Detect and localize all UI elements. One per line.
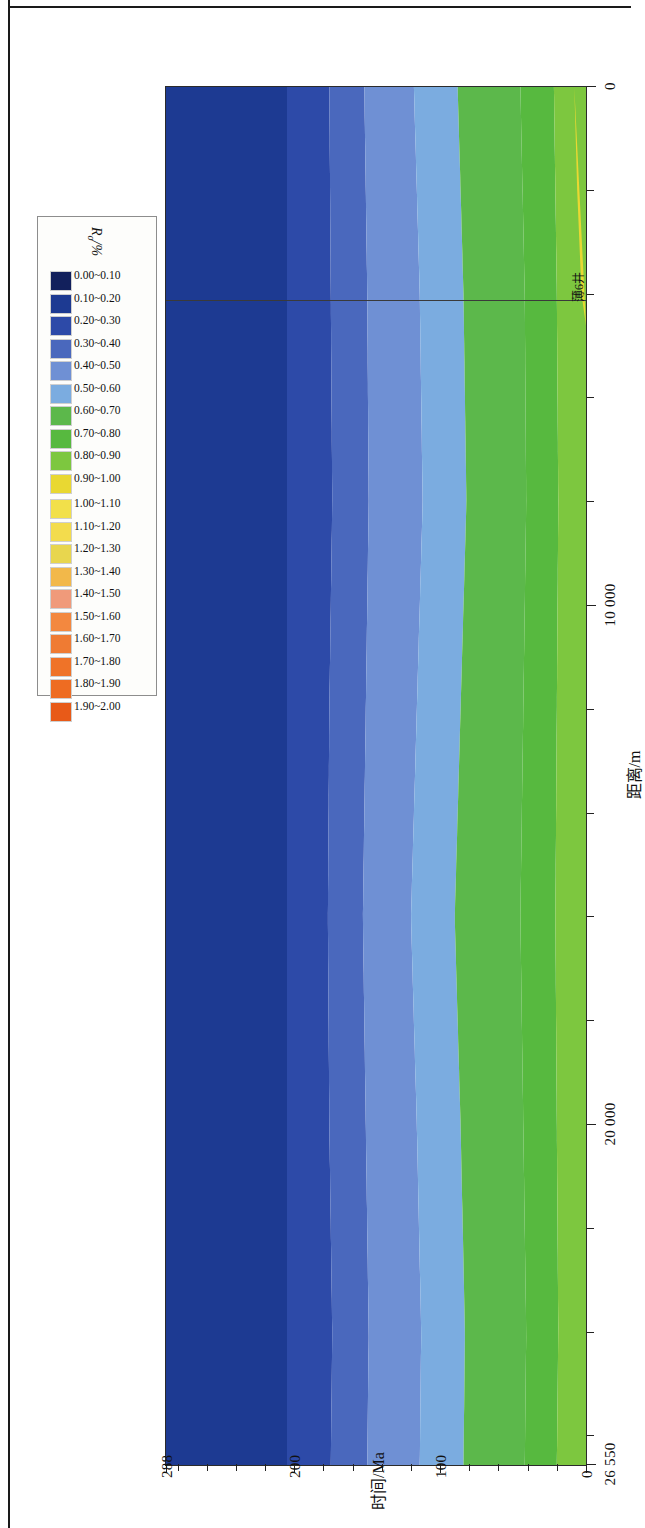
minor-tick-time	[236, 1464, 237, 1471]
minor-tick-distance	[587, 190, 594, 191]
minor-tick-time	[499, 1464, 500, 1471]
minor-tick-distance	[587, 916, 594, 917]
minor-tick-distance	[587, 1332, 594, 1333]
x-tick-label: 0	[602, 82, 619, 90]
x-tick-label: 20 000	[602, 1103, 619, 1146]
legend-low-label: 0.20~0.30	[74, 314, 120, 326]
legend-low-swatch	[50, 384, 72, 404]
legend-high-item: 1.50~1.60	[50, 612, 72, 632]
x-axis-title: 距离/m	[621, 751, 645, 800]
minor-tick-distance	[587, 1228, 594, 1229]
legend-high-item: 1.00~1.10	[50, 499, 72, 519]
legend-high-item: 1.70~1.80	[50, 657, 72, 677]
legend-low-item: 0.60~0.70	[50, 406, 72, 426]
legend-low-label: 0.70~0.80	[74, 427, 120, 439]
x-tick-label: 26 550	[602, 1442, 619, 1485]
legend-high-swatch	[50, 522, 72, 542]
legend-title: Ro/%	[86, 227, 104, 256]
legend-high-label: 1.60~1.70	[74, 632, 120, 644]
legend-high-swatch	[50, 634, 72, 654]
legend-high-label: 1.10~1.20	[74, 520, 120, 532]
legend-low-swatch	[50, 294, 72, 314]
minor-tick-time	[528, 1464, 529, 1471]
y-tick-label: 200	[287, 1455, 304, 1478]
minor-tick-time	[557, 1464, 558, 1471]
band-0.30-0.40	[328, 87, 369, 1465]
legend-high-label: 1.40~1.50	[74, 587, 120, 599]
legend-low-label: 0.30~0.40	[74, 337, 120, 349]
legend-low-label: 0.10~0.20	[74, 292, 120, 304]
legend-low-item: 0.30~0.40	[50, 339, 72, 359]
legend-high-item: 1.30~1.40	[50, 567, 72, 587]
legend-high-swatch	[50, 612, 72, 632]
legend-title-symbol: R	[89, 227, 104, 236]
band-0.10-0.20	[166, 87, 287, 1465]
legend-row-low: 0.00~0.100.10~0.200.20~0.300.30~0.400.40…	[50, 271, 72, 496]
legend-high-swatch	[50, 657, 72, 677]
legend-low-swatch	[50, 361, 72, 381]
legend-low-item: 0.90~1.00	[50, 474, 72, 494]
minor-tick-time	[207, 1464, 208, 1471]
band-0.60-0.70	[455, 87, 526, 1465]
legend-high-swatch	[50, 702, 72, 722]
legend-low-label: 0.00~0.10	[74, 269, 120, 281]
band-0.70-0.80	[520, 87, 558, 1465]
legend-low-item: 0.70~0.80	[50, 429, 72, 449]
legend-low-swatch	[50, 271, 72, 291]
minor-tick-distance	[587, 1435, 594, 1436]
legend-low-swatch	[50, 451, 72, 471]
legend-high-item: 1.90~2.00	[50, 702, 72, 722]
legend-low-swatch	[50, 429, 72, 449]
legend-box: Ro/% 0.00~0.100.10~0.200.20~0.300.30~0.4…	[37, 216, 157, 696]
y-tick-label: 0	[579, 1470, 596, 1478]
legend-high-label: 1.80~1.90	[74, 677, 120, 689]
minor-tick-distance	[587, 709, 594, 710]
legend-high-swatch	[50, 499, 72, 519]
x-tick-label: 10 000	[602, 583, 619, 626]
legend-high-label: 1.50~1.60	[74, 610, 120, 622]
legend-low-item: 0.40~0.50	[50, 361, 72, 381]
legend-low-label: 0.90~1.00	[74, 472, 120, 484]
y-axis-title: 时间/Ma	[365, 1452, 389, 1510]
major-tick-distance	[587, 1124, 596, 1125]
legend-low-item: 0.00~0.10	[50, 271, 72, 291]
legend-low-swatch	[50, 339, 72, 359]
legend-high-item: 1.40~1.50	[50, 589, 72, 609]
legend-low-label: 0.40~0.50	[74, 359, 120, 371]
legend-low-label: 0.50~0.60	[74, 382, 120, 394]
legend-low-item: 0.10~0.20	[50, 294, 72, 314]
legend-high-item: 1.60~1.70	[50, 634, 72, 654]
well-label: 薄6井	[569, 272, 587, 302]
minor-tick-time	[324, 1464, 325, 1471]
contour-bands	[166, 87, 586, 1465]
legend-low-label: 0.80~0.90	[74, 449, 120, 461]
legend-low-item: 0.20~0.30	[50, 316, 72, 336]
legend-high-item: 1.80~1.90	[50, 679, 72, 699]
major-tick-distance	[587, 86, 596, 87]
y-tick-label: 100	[433, 1455, 450, 1478]
legend-high-item: 1.20~1.30	[50, 544, 72, 564]
contour-plot-area	[165, 86, 587, 1466]
minor-tick-distance	[587, 1020, 594, 1021]
band-0.20-0.30	[287, 87, 332, 1465]
legend-high-swatch	[50, 679, 72, 699]
legend-high-swatch	[50, 544, 72, 564]
legend-high-label: 1.00~1.10	[74, 497, 120, 509]
major-tick-distance	[587, 1464, 596, 1465]
legend-high-swatch	[50, 589, 72, 609]
legend-low-swatch	[50, 316, 72, 336]
minor-tick-time	[353, 1464, 354, 1471]
major-tick-distance	[587, 605, 596, 606]
legend-high-label: 1.30~1.40	[74, 565, 120, 577]
legend-low-item: 0.80~0.90	[50, 451, 72, 471]
legend-low-label: 0.60~0.70	[74, 404, 120, 416]
legend-low-swatch	[50, 406, 72, 426]
minor-tick-distance	[587, 397, 594, 398]
legend-title-unit: /%	[89, 241, 104, 257]
minor-tick-time	[469, 1464, 470, 1471]
legend-high-label: 1.90~2.00	[74, 700, 120, 712]
band-0.40-0.50	[363, 87, 423, 1465]
legend-high-item: 1.10~1.20	[50, 522, 72, 542]
minor-tick-distance	[587, 813, 594, 814]
